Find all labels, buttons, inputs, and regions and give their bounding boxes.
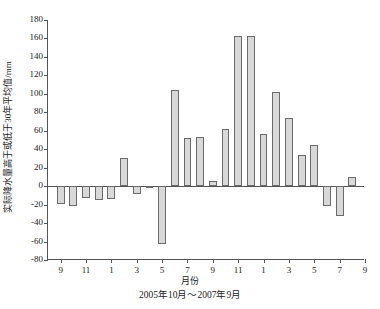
x-tick-mark <box>137 259 138 263</box>
bar <box>120 158 128 187</box>
y-tick-label: 80 <box>34 105 43 118</box>
bar <box>146 186 154 188</box>
x-tick-mark <box>340 259 341 263</box>
y-tick-mark <box>44 223 48 224</box>
bar <box>133 186 141 194</box>
bar <box>348 177 356 186</box>
y-tick-label: 20 <box>34 161 43 174</box>
bar <box>234 36 242 186</box>
bar <box>184 138 192 186</box>
y-tick-label: 180 <box>30 13 44 26</box>
y-tick-label: 160 <box>30 31 44 44</box>
y-tick-mark <box>44 260 48 261</box>
bar <box>196 137 204 186</box>
y-tick-mark <box>44 186 48 187</box>
y-tick-label: 60 <box>34 124 43 137</box>
bar <box>285 118 293 186</box>
bar <box>95 186 103 200</box>
y-tick-mark <box>44 149 48 150</box>
x-tick-mark <box>162 259 163 263</box>
x-tick-mark <box>213 259 214 263</box>
y-tick-label: -80 <box>31 253 43 266</box>
chart-caption: 2005年10月～2007年9月 <box>0 289 380 302</box>
y-tick-mark <box>44 131 48 132</box>
y-axis-title: 实际降水量高于或低于30年平均值/mm <box>1 14 15 260</box>
bar <box>107 186 115 199</box>
x-tick-mark <box>314 259 315 263</box>
y-tick-label: 40 <box>34 142 43 155</box>
y-tick-label: 100 <box>30 87 44 100</box>
bar <box>298 155 306 186</box>
x-tick-mark <box>289 259 290 263</box>
bar <box>310 145 318 187</box>
x-tick-mark <box>111 259 112 263</box>
bar <box>82 186 90 198</box>
y-tick-label: 140 <box>30 50 44 63</box>
y-tick-mark <box>44 57 48 58</box>
y-tick-mark <box>44 75 48 76</box>
y-tick-mark <box>44 20 48 21</box>
y-tick-label: -40 <box>31 216 43 229</box>
y-tick-label: -60 <box>31 235 43 248</box>
bar <box>57 186 65 204</box>
y-tick-label: -20 <box>31 198 43 211</box>
y-tick-label: 0 <box>39 179 44 192</box>
x-axis-title: 月份 <box>0 275 380 287</box>
precipitation-anomaly-chart: 实际降水量高于或低于30年平均值/mm -80-60-40-2002040608… <box>0 0 380 309</box>
bar <box>336 186 344 216</box>
bar <box>69 186 77 206</box>
bar <box>222 129 230 186</box>
x-tick-mark <box>187 259 188 263</box>
x-tick-mark <box>86 259 87 263</box>
bar <box>158 186 166 244</box>
x-tick-mark <box>238 259 239 263</box>
plot-inner: -80-60-40-200204060801001201401601809111… <box>48 20 364 259</box>
y-tick-label: 120 <box>30 68 44 81</box>
y-tick-mark <box>44 205 48 206</box>
x-tick-mark <box>365 259 366 263</box>
bar <box>209 181 217 187</box>
x-tick-mark <box>61 259 62 263</box>
plot-area: -80-60-40-200204060801001201401601809111… <box>47 20 364 260</box>
bar <box>272 92 280 186</box>
bar <box>171 90 179 186</box>
y-tick-mark <box>44 242 48 243</box>
y-tick-mark <box>44 112 48 113</box>
bar <box>260 134 268 187</box>
bar <box>323 186 331 205</box>
bar <box>247 36 255 186</box>
y-tick-mark <box>44 168 48 169</box>
y-tick-mark <box>44 38 48 39</box>
y-tick-mark <box>44 94 48 95</box>
x-tick-mark <box>264 259 265 263</box>
